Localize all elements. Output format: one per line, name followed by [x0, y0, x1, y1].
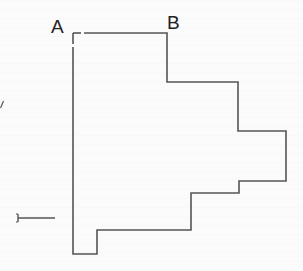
point-label-b: B: [167, 13, 180, 32]
stepped-outline: [73, 33, 286, 254]
point-label-a: A: [51, 17, 64, 36]
slash-mark: [1, 101, 4, 108]
bracket-line-marker: [16, 214, 55, 222]
stepped-shape-diagram: [0, 0, 303, 271]
